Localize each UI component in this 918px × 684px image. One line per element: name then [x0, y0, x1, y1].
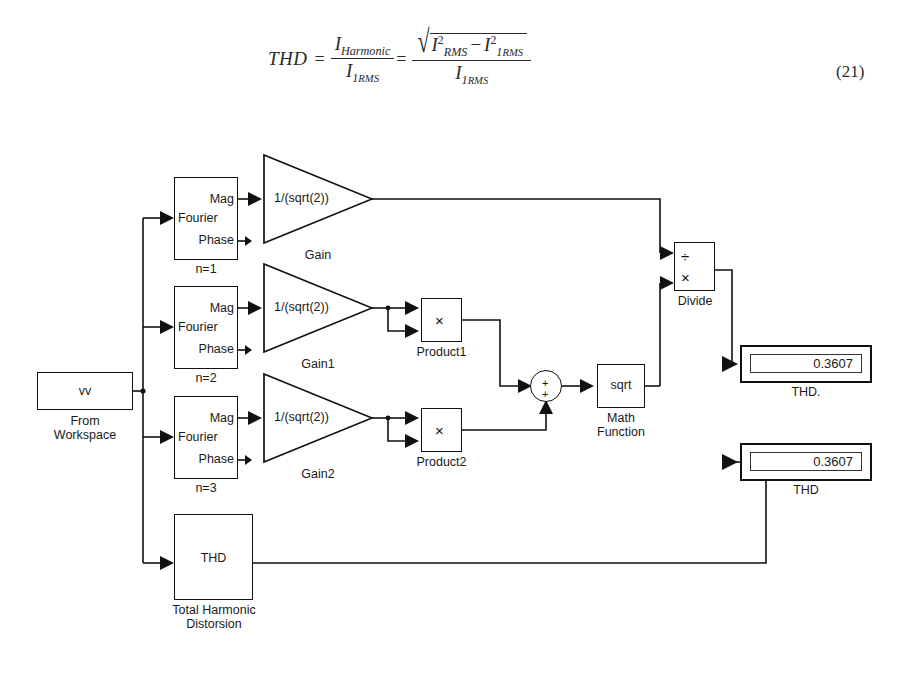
from-workspace-value: vv — [38, 384, 132, 398]
divide-symbol-bottom: × — [681, 270, 690, 285]
sum-input-sign-bottom: + — [542, 389, 548, 400]
fourier-block-2[interactable]: Mag Fourier Phase — [174, 286, 238, 369]
gain-block-2-expression: 1/(sqrt(2)) — [274, 300, 329, 314]
thd-subsystem-label: Total Harmonic Distorsion — [152, 603, 276, 632]
divide-block-label: Divide — [662, 294, 728, 308]
display-block-thd-dot[interactable]: 0.3607 — [740, 345, 872, 383]
signal-wires — [0, 0, 918, 684]
gain-block-3-label: Gain2 — [262, 467, 374, 481]
display-block-thd[interactable]: 0.3607 — [740, 443, 872, 481]
product-block-1-label: Product1 — [401, 345, 482, 359]
gain-block-3-expression: 1/(sqrt(2)) — [274, 410, 329, 424]
fourier-3-mag-port-label: Mag — [210, 411, 234, 425]
from-workspace-label-line1: From — [70, 414, 99, 428]
fourier-block-3-label: n=3 — [174, 481, 238, 495]
fourier-1-name: Fourier — [178, 211, 218, 225]
product-block-2-label: Product2 — [401, 455, 482, 469]
thd-subsystem-label-line1: Total Harmonic — [172, 603, 255, 617]
display-2-value: 0.3607 — [750, 452, 862, 471]
thd-subsystem-block[interactable]: THD — [174, 514, 253, 600]
gain-block-1-expression: 1/(sqrt(2)) — [274, 191, 329, 205]
math-function-label: Math Function — [582, 411, 660, 440]
simulink-block-diagram: vv From Workspace Mag Fourier Phase n=1 … — [0, 0, 918, 684]
product-block-2[interactable]: × — [421, 408, 462, 452]
divide-block[interactable]: ÷ × — [674, 242, 715, 291]
math-function-block[interactable]: sqrt — [597, 364, 645, 408]
product-2-symbol: × — [435, 423, 444, 438]
fourier-block-2-label: n=2 — [174, 371, 238, 385]
from-workspace-block[interactable]: vv — [37, 372, 133, 410]
product-block-1[interactable]: × — [421, 298, 462, 342]
fourier-2-phase-port-label: Phase — [199, 342, 234, 356]
fourier-1-mag-port-label: Mag — [210, 192, 234, 206]
thd-subsystem-label-line2: Distorsion — [186, 617, 242, 631]
math-function-label-line1: Math — [607, 411, 635, 425]
fourier-3-phase-port-label: Phase — [199, 452, 234, 466]
sum-block[interactable]: + + — [530, 370, 562, 402]
display-1-value: 0.3607 — [750, 354, 862, 373]
fourier-2-mag-port-label: Mag — [210, 301, 234, 315]
fourier-block-1[interactable]: Mag Fourier Phase — [174, 177, 238, 260]
math-function-label-line2: Function — [597, 425, 645, 439]
fourier-1-phase-port-label: Phase — [199, 233, 234, 247]
from-workspace-label: From Workspace — [37, 414, 133, 443]
gain-block-1-label: Gain — [262, 248, 374, 262]
fourier-3-name: Fourier — [178, 430, 218, 444]
fourier-block-1-label: n=1 — [174, 262, 238, 276]
product-1-symbol: × — [435, 313, 444, 328]
display-block-thd-label: THD — [740, 483, 872, 497]
page-canvas: THD = IHarmonic I1RMS = √ I2RMS−I21RMS I… — [0, 0, 918, 684]
gain-block-2-label: Gain1 — [262, 357, 374, 371]
fourier-2-name: Fourier — [178, 320, 218, 334]
display-block-thd-dot-label: THD. — [740, 385, 872, 399]
divide-symbol-top: ÷ — [681, 249, 689, 264]
math-function-symbol: sqrt — [598, 378, 644, 392]
fourier-block-3[interactable]: Mag Fourier Phase — [174, 396, 238, 479]
from-workspace-label-line2: Workspace — [54, 428, 116, 442]
thd-subsystem-symbol: THD — [175, 551, 252, 565]
